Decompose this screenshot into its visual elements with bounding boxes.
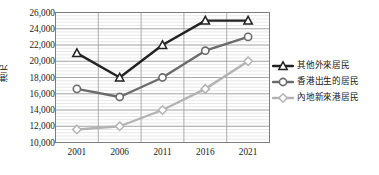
legend-label: 其他外來居民 — [294, 58, 350, 70]
x-tick-label: 2011 — [153, 147, 171, 158]
legend-swatch-triangle-icon — [272, 58, 294, 70]
chart-legend: 其他外來居民香港出生的居民內地新來港居民 — [272, 56, 379, 104]
legend-label: 香港出生的居民 — [294, 74, 359, 86]
legend-swatch-diamond-icon — [272, 90, 294, 102]
legend-item[interactable]: 內地新來港居民 — [272, 88, 379, 104]
legend-item[interactable]: 香港出生的居民 — [272, 72, 379, 88]
x-tick-label: 2006 — [110, 147, 129, 158]
x-tick-label: 2021 — [239, 147, 258, 158]
data-point-marker — [279, 78, 286, 85]
x-tick-label: 2016 — [196, 147, 215, 158]
x-axis-tick-labels: 20012006201120162021 — [55, 0, 270, 175]
data-point-marker — [279, 62, 287, 70]
legend-label: 內地新來港居民 — [294, 90, 359, 102]
data-point-marker — [279, 94, 287, 102]
chart-container: 港元 26,00024,00022,00020,00018,00016,0001… — [0, 0, 379, 175]
legend-swatch-circle-icon — [272, 74, 294, 86]
legend-item[interactable]: 其他外來居民 — [272, 56, 379, 72]
x-tick-label: 2001 — [68, 147, 87, 158]
